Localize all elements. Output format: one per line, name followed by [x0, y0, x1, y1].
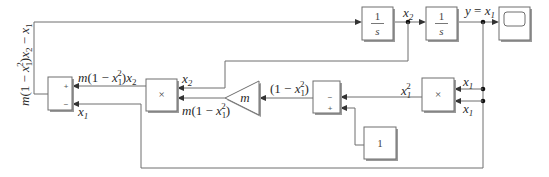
- scope-screen-icon: [504, 12, 525, 26]
- sum-block-main[interactable]: + −: [48, 77, 74, 112]
- integrator-block-2[interactable]: 1 s: [426, 7, 459, 42]
- wire-x1-feedback: [78, 104, 483, 168]
- arrow-into-integrator1: [355, 19, 362, 25]
- integrator1-denominator: s: [375, 25, 379, 37]
- scope-block[interactable]: [499, 7, 532, 42]
- signal-label-m-product: m(1 − x12)x2: [78, 68, 136, 87]
- integrator-block-1[interactable]: 1 s: [362, 7, 395, 42]
- wire-constant: [346, 108, 364, 145]
- signal-label-y: y = x1: [463, 3, 495, 20]
- gain-block[interactable]: m: [225, 81, 261, 117]
- signal-label-one-minus-x1sq: (1 − x12): [270, 79, 309, 98]
- sum-inner-plus-sign: +: [328, 104, 333, 113]
- integrator2-numerator: 1: [439, 10, 445, 22]
- signal-label-m-one-minus-x1sq: m(1 − x12): [182, 101, 230, 120]
- gain-label: m: [240, 90, 249, 105]
- sum-main-minus-sign: −: [64, 100, 69, 109]
- block-diagram: 1 s 1 s × × + − − +: [0, 0, 549, 177]
- signal-label-x2: x2: [402, 5, 414, 22]
- sum-inner-minus-sign: −: [328, 93, 333, 102]
- signal-label-x2-product: x2: [181, 71, 193, 88]
- sum-main-plus-sign: +: [64, 82, 69, 91]
- svg-text:m(1 − x12)x2 − x1: m(1 − x12)x2 − x1: [15, 23, 34, 106]
- arrow-into-integrator2: [419, 19, 426, 25]
- signal-label-x1-squared: x12: [400, 81, 411, 100]
- integrator2-denominator: s: [439, 25, 443, 37]
- integrator1-numerator: 1: [375, 10, 381, 22]
- product-block-main[interactable]: ×: [146, 79, 179, 113]
- constant-block[interactable]: 1: [364, 127, 398, 161]
- multiply-icon: ×: [435, 88, 441, 100]
- signal-label-x1-top: x1: [462, 74, 473, 91]
- multiply-icon: ×: [158, 88, 164, 100]
- signal-label-x1-bottom: x1: [462, 101, 473, 118]
- product-block-square[interactable]: ×: [422, 78, 456, 113]
- sum-block-inner[interactable]: − +: [313, 81, 342, 115]
- signal-label-sum-output: m(1 − x12)x2 − x1: [15, 23, 34, 106]
- constant-value: 1: [377, 137, 383, 149]
- signal-label-x1-sum: x1: [77, 104, 88, 121]
